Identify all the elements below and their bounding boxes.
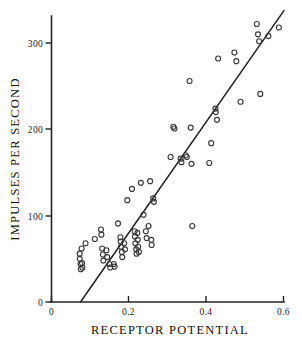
- data-point: [149, 243, 154, 248]
- x-axis-title: RECEPTOR POTENTIAL: [91, 323, 249, 337]
- data-point: [179, 160, 184, 165]
- data-point: [234, 59, 239, 64]
- y-tick-label-100: 100: [28, 212, 43, 222]
- data-point: [213, 110, 218, 115]
- data-point: [98, 227, 103, 232]
- x-tick-label-0.4: 0.4: [200, 307, 213, 317]
- x-tick-label-0.2: 0.2: [122, 307, 135, 317]
- data-point: [255, 32, 260, 37]
- y-axis-title: IMPULSES PER SECOND: [8, 77, 22, 240]
- data-point: [254, 22, 259, 27]
- data-point: [77, 251, 82, 256]
- plot-canvas: 300 200 100 0 0 0.2 0.4 0.6 RECEPTOR POT…: [0, 0, 302, 340]
- data-point: [232, 50, 237, 55]
- data-point: [146, 224, 151, 229]
- data-point: [99, 232, 104, 237]
- data-point: [116, 221, 121, 226]
- data-point: [190, 224, 195, 229]
- data-point: [148, 179, 153, 184]
- data-point: [125, 198, 130, 203]
- x-tick-label-0.6: 0.6: [277, 307, 290, 317]
- data-point: [105, 255, 110, 260]
- data-point: [168, 154, 173, 159]
- x-tick-label-0: 0: [49, 307, 54, 317]
- data-point: [238, 99, 243, 104]
- y-tick-label-200: 200: [28, 125, 43, 135]
- data-point: [189, 161, 194, 166]
- y-axis-ticks: [46, 43, 52, 302]
- data-point: [151, 199, 156, 204]
- y-tick-label-300: 300: [28, 39, 43, 49]
- data-point: [258, 91, 263, 96]
- x-axis-ticks: [52, 296, 284, 302]
- data-point: [79, 246, 84, 251]
- data-point: [129, 186, 134, 191]
- regression-line: [81, 10, 285, 302]
- data-point: [120, 255, 125, 260]
- data-point: [207, 161, 212, 166]
- data-point: [276, 25, 281, 30]
- data-point: [92, 236, 97, 241]
- y-tick-label-0: 0: [38, 298, 43, 308]
- data-point: [188, 125, 193, 130]
- data-point: [138, 180, 143, 185]
- data-point: [257, 39, 262, 44]
- data-point: [187, 78, 192, 83]
- data-point: [214, 117, 219, 122]
- data-point: [216, 56, 221, 61]
- data-point: [143, 229, 148, 234]
- data-point: [83, 241, 88, 246]
- data-point: [209, 141, 214, 146]
- data-point: [149, 237, 154, 242]
- scatter-plot-figure: 300 200 100 0 0 0.2 0.4 0.6 RECEPTOR POT…: [0, 0, 302, 340]
